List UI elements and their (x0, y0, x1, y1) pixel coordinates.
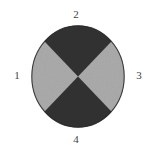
position-label-top: 2 (69, 9, 83, 20)
position-label-bottom: 4 (69, 134, 83, 145)
position-label-left: 1 (10, 70, 24, 81)
quadrant-circle-diagram (31, 25, 125, 128)
figure-root: 2 1 3 4 (0, 0, 154, 153)
position-label-right: 3 (132, 70, 146, 81)
